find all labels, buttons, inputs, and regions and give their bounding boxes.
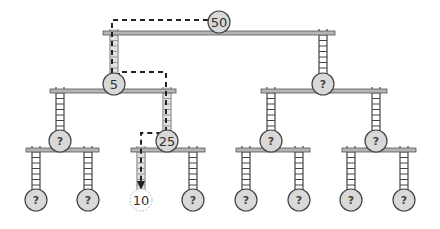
- unknown-node: ?: [182, 189, 204, 211]
- ladder: [372, 87, 380, 131]
- ladder: [56, 87, 64, 131]
- node-label: ?: [373, 135, 379, 148]
- bst-ladder-diagram: 505??25????10?????: [0, 0, 440, 229]
- node-label: 10: [133, 193, 150, 208]
- unknown-node: ?: [312, 73, 334, 95]
- node-label: 5: [110, 77, 118, 92]
- tree-node: 50: [208, 11, 230, 33]
- ladder-on-search-path: [109, 29, 119, 74]
- unknown-node: ?: [288, 189, 310, 211]
- tree-node: 5: [103, 73, 125, 95]
- node-label: ?: [243, 194, 249, 207]
- found-node: 10: [130, 189, 152, 211]
- unknown-node: ?: [365, 130, 387, 152]
- ladder: [84, 146, 92, 190]
- shelves-layer: [26, 31, 416, 152]
- unknown-node: ?: [235, 189, 257, 211]
- unknown-node: ?: [77, 189, 99, 211]
- ladder: [267, 87, 275, 131]
- ladder: [32, 146, 40, 190]
- node-label: ?: [320, 78, 326, 91]
- unknown-node: ?: [25, 189, 47, 211]
- search-path-dashed-line: [112, 20, 208, 183]
- unknown-node: ?: [340, 189, 362, 211]
- tree-diagram-canvas: 505??25????10?????: [0, 0, 440, 229]
- node-label: 50: [211, 15, 228, 30]
- unknown-node: ?: [393, 189, 415, 211]
- unknown-node: ?: [49, 130, 71, 152]
- ladder: [347, 146, 355, 190]
- ladder: [242, 146, 250, 190]
- ladder: [189, 146, 197, 190]
- node-label: ?: [296, 194, 302, 207]
- tree-node: 25: [156, 130, 178, 152]
- node-label: ?: [348, 194, 354, 207]
- node-label: ?: [190, 194, 196, 207]
- ladder: [400, 146, 408, 190]
- node-label: ?: [401, 194, 407, 207]
- node-label: ?: [85, 194, 91, 207]
- ladders-layer: [32, 29, 408, 190]
- node-label: ?: [57, 135, 63, 148]
- ladder: [295, 146, 303, 190]
- node-label: ?: [33, 194, 39, 207]
- node-label: ?: [268, 135, 274, 148]
- node-label: 25: [159, 134, 176, 149]
- unknown-node: ?: [260, 130, 282, 152]
- search-path-layer: [112, 20, 208, 190]
- ladder: [319, 29, 327, 74]
